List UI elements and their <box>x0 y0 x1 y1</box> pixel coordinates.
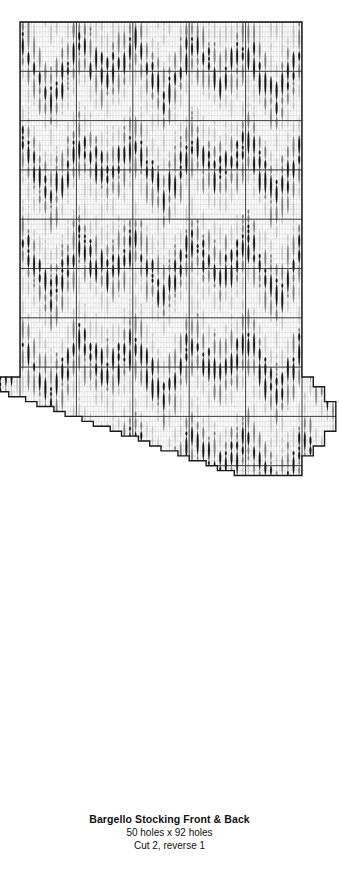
chart-title: Bargello Stocking Front & Back <box>0 812 339 826</box>
chart-canvas <box>0 0 339 895</box>
chart-dimensions: 50 holes x 92 holes <box>0 826 339 839</box>
chart-instruction: Cut 2, reverse 1 <box>0 839 339 852</box>
bargello-chart <box>0 0 339 895</box>
caption-block: Bargello Stocking Front & Back 50 holes … <box>0 812 339 852</box>
